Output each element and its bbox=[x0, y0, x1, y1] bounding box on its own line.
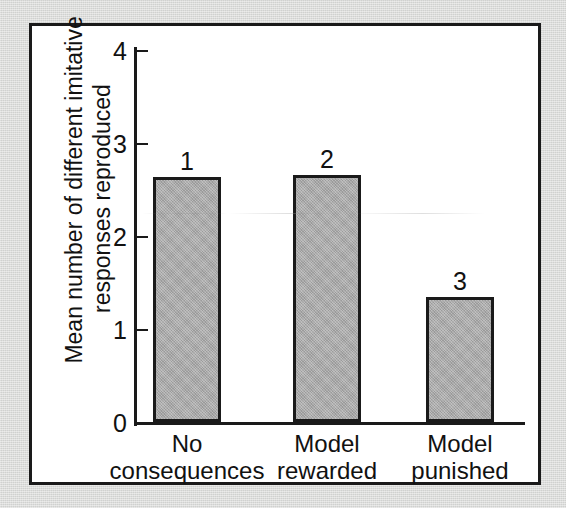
figure-frame: Mean number of different imitative respo… bbox=[29, 23, 541, 485]
category-label-line-1: Model bbox=[250, 430, 404, 457]
bar-no-consequences[interactable]: 1 bbox=[153, 177, 221, 422]
y-tick-mark-3 bbox=[137, 143, 148, 145]
category-label-line-2: consequences bbox=[107, 457, 267, 484]
y-tick-mark-2 bbox=[137, 236, 148, 238]
category-label-no-consequences: No consequences bbox=[107, 430, 267, 485]
y-tick-2: 2 bbox=[137, 236, 148, 238]
y-axis-title-line-2: responses reproduced bbox=[89, 34, 117, 364]
x-axis-line bbox=[134, 422, 525, 425]
y-tick-1: 1 bbox=[137, 329, 148, 331]
bar-label-2: 2 bbox=[320, 147, 334, 172]
y-tick-label-4: 4 bbox=[113, 39, 127, 64]
category-label-line-1: Model bbox=[387, 430, 533, 457]
bar-model-punished[interactable]: 3 bbox=[426, 297, 494, 422]
bar-label-3: 3 bbox=[453, 269, 467, 294]
y-tick-4: 4 bbox=[137, 50, 148, 52]
bar-label-1: 1 bbox=[180, 149, 194, 174]
y-tick-mark-4 bbox=[137, 50, 148, 52]
y-axis-title: Mean number of different imitative respo… bbox=[61, 34, 116, 364]
category-label-line-2: rewarded bbox=[250, 457, 404, 484]
bar-model-rewarded[interactable]: 2 bbox=[293, 175, 361, 422]
y-tick-mark-0 bbox=[137, 422, 148, 424]
y-tick-label-3: 3 bbox=[113, 132, 127, 157]
y-tick-0: 0 bbox=[137, 422, 148, 424]
category-label-model-rewarded: Model rewarded bbox=[250, 430, 404, 485]
plot-area: Mean number of different imitative respo… bbox=[32, 26, 538, 482]
y-tick-label-2: 2 bbox=[113, 225, 127, 250]
y-tick-mark-1 bbox=[137, 329, 148, 331]
category-label-line-2: punished bbox=[387, 457, 533, 484]
y-tick-3: 3 bbox=[137, 143, 148, 145]
y-tick-label-1: 1 bbox=[113, 318, 127, 343]
category-label-line-1: No bbox=[107, 430, 267, 457]
y-axis-title-line-1: Mean number of different imitative bbox=[61, 34, 89, 364]
category-label-model-punished: Model punished bbox=[387, 430, 533, 485]
